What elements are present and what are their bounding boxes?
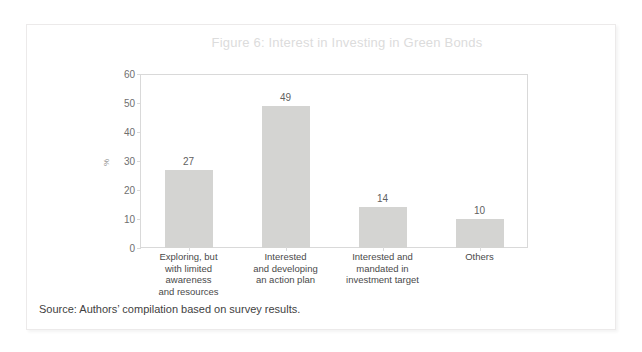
bar [165, 170, 213, 248]
bar-group: 10 [456, 74, 504, 248]
y-axis-tick-mark [137, 132, 141, 133]
bar-value-label: 14 [359, 193, 407, 204]
bar-group: 27 [165, 74, 213, 248]
y-axis-tick-label: 0 [111, 243, 135, 254]
x-axis-category-label: Others [431, 251, 528, 263]
y-axis-tick-label: 10 [111, 214, 135, 225]
y-axis-tick-label: 50 [111, 98, 135, 109]
y-axis-tick-mark [137, 219, 141, 220]
x-axis-category-label: Interested andmandated ininvestment targ… [334, 251, 431, 286]
y-axis-tick-label: 40 [111, 127, 135, 138]
bar-group: 14 [359, 74, 407, 248]
bar [262, 106, 310, 248]
y-axis-tick-label: 30 [111, 156, 135, 167]
bar-value-label: 10 [456, 205, 504, 216]
bar [456, 219, 504, 248]
bar-chart: % 0102030405060 27491410 Exploring, butw… [27, 25, 617, 290]
x-axis-category-label: Interestedand developingan action plan [237, 251, 334, 286]
y-axis-tick-mark [137, 74, 141, 75]
bar-group: 49 [262, 74, 310, 248]
y-axis-tick-mark [137, 248, 141, 249]
y-axis-tick-mark [137, 190, 141, 191]
x-axis-labels: Exploring, butwith limitedawarenessand r… [140, 251, 528, 307]
y-axis-tick-mark [137, 103, 141, 104]
y-axis-label: % [102, 159, 111, 166]
y-axis-tick-label: 20 [111, 185, 135, 196]
bar-value-label: 27 [165, 156, 213, 167]
figure-card: Figure 6: Interest in Investing in Green… [26, 24, 616, 330]
bar [359, 207, 407, 248]
y-axis-tick-label: 60 [111, 69, 135, 80]
bars-layer: 27491410 [140, 74, 528, 248]
source-note: Source: Authors’ compilation based on su… [39, 303, 300, 315]
bar-value-label: 49 [262, 92, 310, 103]
y-axis-ticks: 0102030405060 [111, 74, 135, 248]
y-axis-tick-mark [137, 161, 141, 162]
x-axis-category-label: Exploring, butwith limitedawarenessand r… [140, 251, 237, 297]
